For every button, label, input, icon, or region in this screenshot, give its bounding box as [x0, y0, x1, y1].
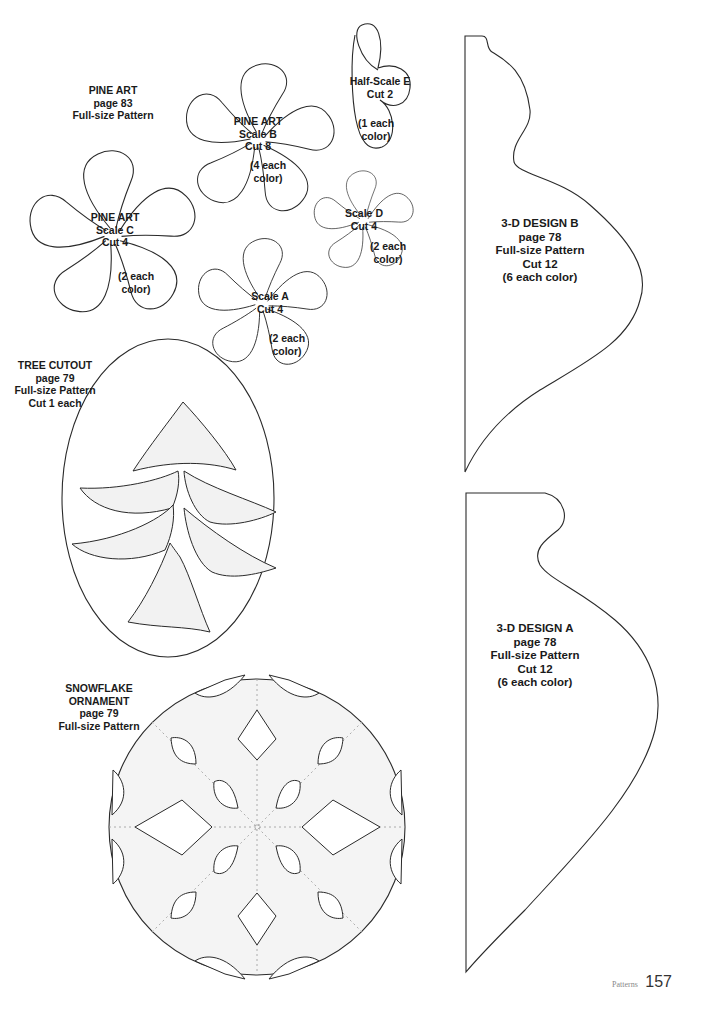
flower-c-scale: Scale C	[91, 224, 140, 237]
design-a-note: Full-size Pattern	[491, 649, 580, 663]
snowflake-label: SNOWFLAKE ORNAMENT page 79 Full-size Pat…	[58, 682, 139, 732]
page-footer: Patterns 157	[612, 973, 672, 991]
design-a-page: page 78	[491, 636, 580, 650]
flower-e-scale: Half-Scale E	[350, 75, 411, 88]
section-name: Patterns	[612, 980, 638, 989]
flower-b-each-label: (4 each color)	[250, 159, 286, 184]
flower-d-each-line2: color)	[370, 253, 406, 266]
tree-branch-right-1	[184, 471, 276, 524]
flower-d-scale: Scale D	[345, 207, 383, 220]
flower-c-cut: Cut 4	[91, 236, 140, 249]
flower-b-label: PINE ART Scale B Cut 8	[234, 115, 283, 153]
flower-e-label: Half-Scale E Cut 2	[350, 75, 411, 100]
flower-a-scale: Scale A	[251, 290, 289, 303]
design-a-outline	[466, 493, 658, 972]
design-a-title: 3-D DESIGN A	[491, 622, 580, 636]
flower-e-cut: Cut 2	[350, 88, 411, 101]
pine-art-note: Full-size Pattern	[72, 109, 153, 122]
design-a-label: 3-D DESIGN A page 78 Full-size Pattern C…	[491, 622, 580, 690]
flower-a-each-line2: color)	[269, 345, 305, 358]
flower-b-cut: Cut 8	[234, 140, 283, 153]
snowflake-ornament	[109, 675, 405, 979]
tree-page: page 79	[14, 372, 95, 385]
flower-a-cut: Cut 4	[251, 303, 289, 316]
pine-art-page: page 83	[72, 97, 153, 110]
tree-top-piece	[133, 402, 236, 471]
flower-c-each-line2: color)	[118, 283, 154, 296]
snowflake-note: Full-size Pattern	[58, 720, 139, 733]
flower-e-each-line1: (1 each	[358, 117, 394, 130]
page-number: 157	[645, 973, 672, 990]
pine-art-title: PINE ART	[72, 84, 153, 97]
snowflake-title-line2: ORNAMENT	[58, 695, 139, 708]
snowflake-title-line1: SNOWFLAKE	[58, 682, 139, 695]
design-b-note: Full-size Pattern	[496, 244, 585, 258]
flower-d-cut: Cut 4	[345, 220, 383, 233]
flower-c-title: PINE ART	[91, 211, 140, 224]
flower-b-each-line1: (4 each	[250, 159, 286, 172]
tree-note: Full-size Pattern	[14, 384, 95, 397]
flower-b-each-line2: color)	[250, 172, 286, 185]
design-b-each: (6 each color)	[496, 271, 585, 285]
flower-d-label: Scale D Cut 4	[345, 207, 383, 232]
flower-d-each-label: (2 each color)	[370, 240, 406, 265]
pattern-artwork	[0, 0, 705, 1024]
tree-branch-left-2	[72, 505, 174, 559]
flower-e-each-line2: color)	[358, 130, 394, 143]
flower-c-label: PINE ART Scale C Cut 4	[91, 211, 140, 249]
flower-a-each-line1: (2 each	[269, 332, 305, 345]
flower-c-each-line1: (2 each	[118, 270, 154, 283]
flower-d-each-line1: (2 each	[370, 240, 406, 253]
design-a-each: (6 each color)	[491, 676, 580, 690]
tree-title: TREE CUTOUT	[14, 359, 95, 372]
snowflake-page: page 79	[58, 707, 139, 720]
design-b-page: page 78	[496, 231, 585, 245]
flower-c-each-label: (2 each color)	[118, 270, 154, 295]
design-a-cut: Cut 12	[491, 663, 580, 677]
flower-a-label: Scale A Cut 4	[251, 290, 289, 315]
flower-b-title: PINE ART	[234, 115, 283, 128]
flower-e-each-label: (1 each color)	[358, 117, 394, 142]
pine-art-header-label: PINE ART page 83 Full-size Pattern	[72, 84, 153, 122]
tree-cut: Cut 1 each	[14, 397, 95, 410]
tree-cutout-label: TREE CUTOUT page 79 Full-size Pattern Cu…	[14, 359, 95, 409]
flower-b-scale: Scale B	[234, 128, 283, 141]
design-b-cut: Cut 12	[496, 258, 585, 272]
design-b-title: 3-D DESIGN B	[496, 217, 585, 231]
tree-branch-left-1	[80, 471, 179, 513]
flower-a-each-label: (2 each color)	[269, 332, 305, 357]
design-b-label: 3-D DESIGN B page 78 Full-size Pattern C…	[496, 217, 585, 285]
